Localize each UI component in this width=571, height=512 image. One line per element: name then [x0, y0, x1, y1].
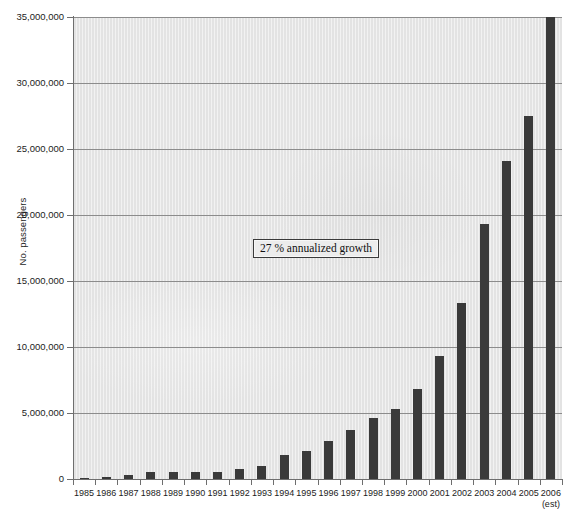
x-axis-tick [206, 480, 207, 485]
bar-1997 [346, 430, 355, 479]
x-axis-tick [184, 480, 185, 485]
y-axis-tick [67, 149, 73, 150]
y-axis-tick-label: 5,000,000 [0, 407, 64, 418]
x-axis-footnote-est: (est) [536, 499, 566, 509]
y-axis-tick [67, 83, 73, 84]
x-axis-tick [384, 480, 385, 485]
y-axis-tick [67, 17, 73, 18]
y-axis-tick-label: 25,000,000 [0, 143, 64, 154]
x-axis-tick-label-2006: 2006 [536, 488, 566, 498]
x-axis-tick [273, 480, 274, 485]
x-axis-tick [495, 480, 496, 485]
y-axis-tick [67, 413, 73, 414]
x-axis-tick [73, 480, 74, 485]
bar-2003 [480, 224, 489, 479]
bar-1996 [324, 441, 333, 479]
bar-1993 [257, 466, 266, 479]
x-axis-tick [95, 480, 96, 485]
bar-1998 [369, 418, 378, 479]
chart-figure: No. passengers 05,000,00010,000,00015,00… [0, 0, 571, 512]
y-axis-line [73, 16, 74, 480]
bar-2002 [457, 303, 466, 479]
y-axis-tick [67, 281, 73, 282]
scan-header-artifact [120, 0, 360, 8]
y-axis-tick-labels: 05,000,00010,000,00015,000,00020,000,000… [0, 0, 64, 512]
x-axis-tick [473, 480, 474, 485]
bar-1989 [169, 472, 178, 479]
y-axis-tick-label: 30,000,000 [0, 77, 64, 88]
gridline [73, 17, 562, 18]
x-axis-tick [406, 480, 407, 485]
x-axis-tick [251, 480, 252, 485]
gridline [73, 215, 562, 216]
bar-2004 [502, 161, 511, 479]
x-axis-tick [540, 480, 541, 485]
y-axis-tick-label: 35,000,000 [0, 11, 64, 22]
x-axis-tick [429, 480, 430, 485]
bar-1992 [235, 469, 244, 479]
y-axis-tick-label: 10,000,000 [0, 341, 64, 352]
bar-2006 [546, 17, 555, 479]
bar-1991 [213, 472, 222, 479]
bar-1994 [280, 455, 289, 479]
x-axis-tick [518, 480, 519, 485]
y-axis-tick-label: 20,000,000 [0, 209, 64, 220]
x-axis-tick [451, 480, 452, 485]
annotation-growth-rate: 27 % annualized growth [253, 239, 379, 258]
bar-2005 [524, 116, 533, 479]
x-axis-tick [362, 480, 363, 485]
y-axis-tick-label: 15,000,000 [0, 275, 64, 286]
x-axis-tick [562, 480, 563, 485]
bar-1988 [146, 472, 155, 479]
bar-1999 [391, 409, 400, 479]
y-axis-tick [67, 347, 73, 348]
bar-1990 [191, 472, 200, 479]
bar-2000 [413, 389, 422, 479]
bar-1995 [302, 451, 311, 479]
y-axis-tick-label: 0 [0, 473, 64, 484]
x-axis-tick [162, 480, 163, 485]
x-axis-tick [295, 480, 296, 485]
x-axis-tick [340, 480, 341, 485]
y-axis-tick [67, 215, 73, 216]
bar-2001 [435, 356, 444, 479]
x-axis-tick [229, 480, 230, 485]
x-axis-tick [117, 480, 118, 485]
gridline [73, 83, 562, 84]
x-axis-tick [318, 480, 319, 485]
gridline [73, 149, 562, 150]
x-axis-tick [140, 480, 141, 485]
